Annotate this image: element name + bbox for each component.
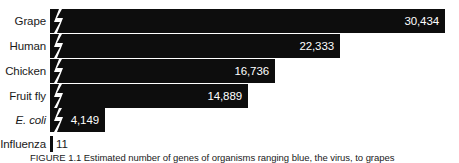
bar-e-coli: 4,149 [50,108,105,132]
figure-caption: FIGURE 1.1 Estimated number of genes of … [30,152,454,163]
bar-human: 22,333 [50,34,340,58]
axis-break-zigzag-icon [52,59,68,83]
bar-value-label: 16,736 [234,65,275,78]
bar-fruit-fly: 14,889 [50,84,248,108]
gene-count-bar-chart: Grape 30,434 Human 22,333 Chicken [0,0,459,163]
category-label: Chicken [0,65,50,78]
bar-value-label: 4,149 [71,114,105,127]
bar-wrapper: 30,434 [50,9,445,33]
bar-value-label: 22,333 [299,40,340,53]
chart-row: Grape 30,434 [0,9,459,33]
bar-value-label: 14,889 [207,90,248,103]
chart-row: Human 22,333 [0,34,459,58]
category-label: Human [0,40,50,53]
bar-value-label: 30,434 [404,15,445,28]
chart-row: Fruit fly 14,889 [0,84,459,108]
axis-break-zigzag-icon [52,84,68,108]
axis-break-zigzag-icon [52,9,68,33]
category-label: Influenza [0,138,50,151]
chart-row: E. coli 4,149 [0,108,459,132]
axis-break-zigzag-icon [52,34,68,58]
bar-wrapper: 14,889 [50,84,248,108]
bar-chicken: 16,736 [50,59,275,83]
category-label: Grape [0,15,50,28]
bar-value-label: 11 [53,138,68,151]
bar-grape: 30,434 [50,9,445,33]
category-label: E. coli [0,114,50,127]
bar-wrapper: 22,333 [50,34,340,58]
chart-row: Chicken 16,736 [0,59,459,83]
axis-break-zigzag-icon [52,108,68,132]
category-label: Fruit fly [0,90,50,103]
bar-wrapper: 4,149 [50,108,105,132]
bar-wrapper: 16,736 [50,59,275,83]
